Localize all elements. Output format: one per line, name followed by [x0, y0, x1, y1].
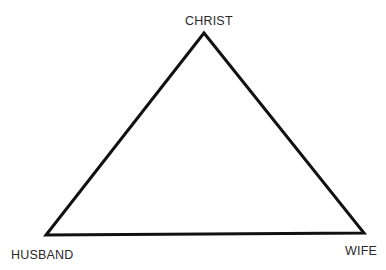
- triangle-outline: [46, 33, 364, 235]
- apex-label: CHRIST: [185, 15, 233, 28]
- triangle-diagram: CHRIST HUSBAND WIFE: [0, 0, 386, 270]
- bottom-left-label: HUSBAND: [11, 249, 74, 262]
- bottom-right-label: WIFE: [345, 245, 377, 258]
- triangle-shape: [0, 0, 386, 270]
